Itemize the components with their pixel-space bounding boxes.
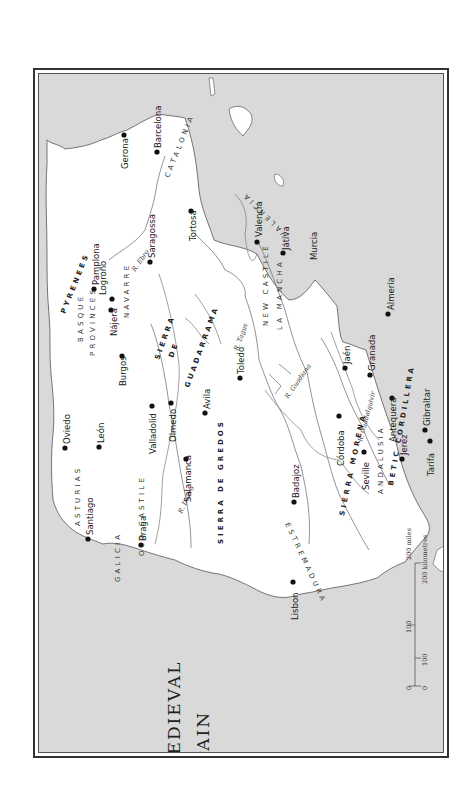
city-tortosa: Tortosa: [188, 208, 198, 242]
svg-text:Tarifa: Tarifa: [426, 453, 436, 477]
svg-text:Avila: Avila: [202, 389, 212, 409]
svg-text:Seville: Seville: [361, 462, 371, 490]
map-frame: Barcelona Gerona Tortosa Valencia Játiva…: [33, 68, 449, 758]
region-asturias: ASTURIAS: [74, 466, 82, 526]
north-africa-coast: [433, 544, 444, 574]
region-basque: BASQUE: [77, 294, 85, 342]
title-line-2: Spain: [187, 711, 215, 753]
map-svg: Barcelona Gerona Tortosa Valencia Játiva…: [39, 74, 444, 753]
city-santiago: Santiago: [85, 498, 95, 542]
ibiza-island: [274, 174, 283, 186]
mallorca-island: [229, 106, 252, 136]
city-burgos: Burgos: [118, 353, 128, 386]
svg-text:Murcia: Murcia: [309, 232, 319, 260]
mountain-sierra-de-gredos: SIERRA DE GREDOS: [217, 419, 225, 544]
scale-miles-label: 200 miles: [405, 528, 413, 560]
region-galicia: GALICIA: [114, 532, 122, 582]
svg-text:Gibraltar: Gibraltar: [422, 388, 432, 426]
svg-text:Almería: Almería: [386, 277, 396, 310]
region-old-castile: OLD CASTILE: [138, 475, 146, 556]
region-provinces: PROVINCES: [89, 287, 97, 356]
svg-text:Oviedo: Oviedo: [62, 414, 72, 444]
map-title: Medieval Spain: [158, 661, 215, 753]
svg-text:Jaén: Jaén: [342, 346, 352, 365]
svg-text:Nájera: Nájera: [109, 308, 119, 336]
map-canvas: Barcelona Gerona Tortosa Valencia Játiva…: [38, 73, 444, 753]
scale-miles-100: 100: [405, 621, 413, 633]
svg-text:Burgos: Burgos: [118, 356, 128, 386]
city-najera: Nájera: [108, 307, 119, 336]
city-tarifa: Tarifa: [426, 438, 436, 477]
region-valencia: VALENCIA: [240, 190, 288, 238]
city-almeria: Almería: [385, 277, 396, 316]
svg-text:Granada: Granada: [367, 335, 377, 372]
city-badajoz: Badajoz: [291, 464, 301, 505]
svg-text:Córdoba: Córdoba: [336, 430, 346, 466]
city-saragossa: Saragossa: [147, 214, 157, 265]
scale-km-100: 100: [421, 654, 429, 666]
city-barcelona: Barcelona: [153, 106, 163, 155]
svg-text:Olmedo: Olmedo: [168, 409, 178, 442]
region-new-castile: NEW CASTILE: [262, 243, 270, 326]
svg-text:Badajoz: Badajoz: [291, 464, 301, 498]
menorca-island: [209, 78, 215, 96]
svg-text:Barcelona: Barcelona: [153, 106, 163, 148]
region-la-mancha: LA MANCHA: [276, 259, 284, 330]
svg-text:Lisbon: Lisbon: [290, 592, 300, 620]
svg-text:Logroño: Logroño: [98, 261, 108, 295]
region-navarre: NAVARRE: [123, 263, 131, 318]
title-line-1: Medieval: [158, 661, 186, 753]
svg-text:Santiago: Santiago: [85, 498, 95, 536]
city-granada: Granada: [367, 335, 377, 378]
svg-text:Valladolid: Valladolid: [148, 413, 158, 454]
city-gibraltar: Gibraltar: [422, 388, 432, 433]
city-murcia: Murcia: [309, 232, 319, 260]
svg-text:León: León: [96, 423, 106, 443]
svg-text:Tortosa: Tortosa: [188, 210, 198, 242]
svg-text:Gerona: Gerona: [120, 138, 130, 169]
scale-km-0: 0: [421, 686, 429, 690]
scale-km-label: 200 kilometres: [421, 535, 429, 584]
region-andalusia: ANDALUSIA: [377, 425, 385, 494]
scale-miles-0: 0: [405, 686, 413, 690]
